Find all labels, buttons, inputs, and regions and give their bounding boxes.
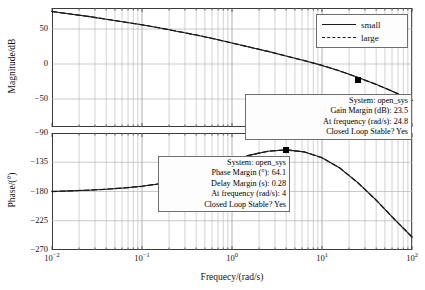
legend-label: small [361,20,381,30]
legend-solid-line-icon [322,24,356,26]
legend-item-small[interactable]: small [322,18,402,31]
gain-tooltip-line-margin: Gain Margin (dB): 23.5 [249,106,408,116]
gain-margin-marker [355,77,361,83]
frequency-tick: 100 [216,253,248,263]
phase-tooltip-line-system: System: open_sys [162,158,286,168]
phase-tooltip-line-delay: Delay Margin (s): 0.28 [162,179,286,189]
phase-tick: −90 [10,127,48,137]
legend-label: large [361,33,379,43]
frequency-tick: 10−1 [126,253,158,263]
legend-dashed-line-icon [322,37,356,39]
gain-tooltip-line-frequency: At frequency (rad/s): 24.8 [249,117,408,127]
phase-tick: −225 [10,215,48,225]
frequency-tick: 101 [306,253,338,263]
phase-tooltip-line-frequency: At frequency (rad/s): 4 [162,189,286,199]
phase-margin-marker [283,147,289,153]
bode-plot-figure: Magnitude/dB Phase/(°) Frequecy/(rad/s) … [0,0,425,290]
gain-tooltip-line-stable: Closed Loop Stable? Yes [249,127,408,137]
phase-tick: −180 [10,186,48,196]
phase-margin-tooltip: System: open_sys Phase Margin (°): 64.1 … [158,156,290,212]
gain-tooltip-line-system: System: open_sys [249,96,408,106]
phase-tick: −135 [10,156,48,166]
legend: smalllarge [316,14,408,48]
legend-item-large[interactable]: large [322,31,402,44]
frequency-tick: 10−2 [36,253,68,263]
phase-tooltip-line-stable: Closed Loop Stable? Yes [162,200,286,210]
gain-margin-tooltip: System: open_sys Gain Margin (dB): 23.5 … [245,94,412,140]
magnitude-tick: 0 [10,58,48,68]
magnitude-tick: −50 [10,93,48,103]
phase-tooltip-line-margin: Phase Margin (°): 64.1 [162,168,286,178]
magnitude-tick: 50 [10,23,48,33]
frequency-tick: 102 [396,253,425,263]
